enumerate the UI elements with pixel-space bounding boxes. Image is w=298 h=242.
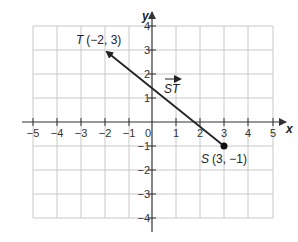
coordinate-plane: −5 −4 −3 −2 −1 1 2 3 4 5 0 4 3 2 1 −1 −2… bbox=[0, 0, 298, 242]
x-tick-label: 5 bbox=[270, 127, 276, 139]
point-s bbox=[221, 143, 228, 150]
x-tick-labels: −5 −4 −3 −2 −1 1 2 3 4 5 bbox=[27, 127, 276, 139]
point-s-label: S(3, −1) bbox=[201, 152, 247, 166]
y-tick-label: −3 bbox=[137, 188, 150, 200]
y-tick-label: 1 bbox=[144, 92, 150, 104]
y-tick-label: 2 bbox=[144, 68, 150, 80]
point-s-coords: (3, −1) bbox=[212, 152, 247, 166]
y-tick-label: −1 bbox=[137, 140, 150, 152]
point-t-name: T bbox=[76, 33, 85, 47]
point-s-name: S bbox=[201, 152, 209, 166]
x-tick-label: −2 bbox=[99, 127, 112, 139]
y-tick-label: −4 bbox=[137, 212, 150, 224]
x-tick-label: −4 bbox=[51, 127, 64, 139]
axes bbox=[22, 12, 286, 232]
x-tick-label: −3 bbox=[75, 127, 88, 139]
vector-label: ST bbox=[164, 79, 181, 96]
x-tick-label: −1 bbox=[123, 127, 136, 139]
x-tick-label: 3 bbox=[221, 127, 227, 139]
y-tick-label: −2 bbox=[137, 164, 150, 176]
vector-label-text: ST bbox=[164, 82, 181, 96]
y-axis-label: y bbox=[141, 9, 150, 23]
point-t-label: T(−2, 3) bbox=[76, 33, 121, 47]
y-tick-label: 3 bbox=[144, 44, 150, 56]
point-t-coords: (−2, 3) bbox=[86, 33, 121, 47]
x-tick-label: −5 bbox=[27, 127, 40, 139]
x-axis-label: x bbox=[285, 122, 294, 136]
x-tick-label: 4 bbox=[245, 127, 251, 139]
x-tick-label: 1 bbox=[173, 127, 179, 139]
origin-label: 0 bbox=[145, 127, 151, 139]
